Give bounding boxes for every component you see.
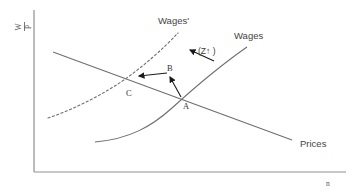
y-axis-fraction: W P xyxy=(11,17,37,37)
wages-prime-label: Wages' xyxy=(158,16,189,26)
wages-label: Wages xyxy=(234,31,263,41)
y-axis-denominator: P xyxy=(25,25,33,29)
ws-ps-diagram: W P n Wages' Wages Prices (Z↑ ) A B C xyxy=(0,0,352,196)
y-axis-label: W P xyxy=(14,14,34,40)
wages-curve xyxy=(95,47,247,142)
prices-label: Prices xyxy=(300,139,326,149)
arrow-b-to-c xyxy=(139,73,167,76)
point-b-label: B xyxy=(167,64,173,73)
y-axis-numerator: W xyxy=(15,23,23,30)
wages-prime-curve xyxy=(48,33,178,118)
arrow-a-to-b xyxy=(170,77,181,97)
point-c-label: C xyxy=(126,89,132,98)
z-shift-annotation: (Z↑ ) xyxy=(198,47,215,56)
diagram-canvas xyxy=(0,0,352,196)
x-axis-label: n xyxy=(326,180,330,188)
point-a-label: A xyxy=(183,102,189,111)
